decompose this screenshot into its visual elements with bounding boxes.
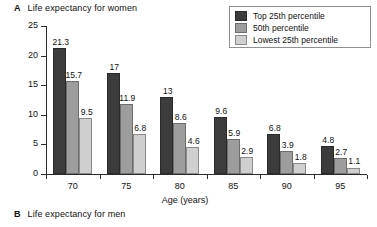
bar — [240, 157, 253, 174]
bar-value-label: 9.6 — [215, 106, 227, 116]
bar-value-label: 4.6 — [188, 136, 200, 146]
y-tick-label: 15 — [0, 79, 38, 89]
bar — [280, 151, 293, 174]
x-tick-mark — [367, 175, 368, 179]
legend-swatch-top-25th-percentile — [235, 11, 247, 21]
y-tick-label: 0 — [0, 168, 38, 178]
bar — [334, 158, 347, 174]
bar — [293, 163, 306, 174]
bar — [120, 104, 133, 174]
bar-groups: 21.315.79.51711.96.8138.64.69.65.92.96.8… — [46, 26, 367, 174]
bar-value-label: 8.6 — [175, 112, 187, 122]
y-tick-label: 20 — [0, 50, 38, 60]
legend-item: Top 25th percentile — [235, 10, 366, 22]
bar-value-label: 3.9 — [282, 140, 294, 150]
x-tick-mark — [46, 175, 47, 179]
bar-value-label: 17 — [110, 62, 119, 72]
bar — [66, 81, 79, 174]
x-tick-label: 70 — [68, 181, 78, 191]
legend-label-top-25th-percentile: Top 25th percentile — [253, 11, 325, 21]
panel-a-title: Life expectancy for women — [28, 3, 138, 13]
bar — [133, 134, 146, 174]
bar-value-label: 5.9 — [228, 128, 240, 138]
bar — [160, 97, 173, 174]
bar — [214, 117, 227, 174]
y-tick-label: 10 — [0, 109, 38, 119]
bar-value-label: 11.9 — [119, 93, 135, 103]
x-tick-mark — [207, 175, 208, 179]
bar — [186, 147, 199, 174]
bar-value-label: 15.7 — [65, 70, 82, 80]
bar — [347, 168, 360, 175]
panel-b-letter: B — [14, 209, 21, 219]
x-tick-label: 75 — [121, 181, 131, 191]
panel-a-heading: ALife expectancy for women — [14, 3, 137, 13]
x-axis-title: Age (years) — [162, 195, 209, 205]
figure-panel-a: ALife expectancy for women Top 25th perc… — [0, 0, 377, 227]
bar — [227, 139, 240, 174]
bar-value-label: 13 — [163, 86, 172, 96]
x-tick-mark — [100, 175, 101, 179]
bar — [173, 123, 186, 174]
bar-value-label: 2.9 — [241, 146, 253, 156]
bar-value-label: 4.8 — [322, 135, 334, 145]
bar-value-label: 9.5 — [81, 107, 93, 117]
panel-b-heading: BLife expectancy for men — [14, 209, 125, 219]
y-tick-label: 5 — [0, 138, 38, 148]
x-tick-mark — [314, 175, 315, 179]
x-tick-mark — [260, 175, 261, 179]
x-tick-label: 85 — [228, 181, 238, 191]
bar — [107, 73, 120, 174]
bar — [79, 118, 92, 174]
bar-value-label: 6.8 — [134, 123, 146, 133]
x-tick-mark — [153, 175, 154, 179]
bar-value-label: 2.7 — [335, 147, 347, 157]
bar-value-label: 1.1 — [348, 156, 360, 166]
bar-value-label: 6.8 — [269, 123, 281, 133]
bar-value-label: 21.3 — [52, 37, 69, 47]
bar — [267, 134, 280, 174]
y-tick-label: 25 — [0, 20, 38, 30]
x-tick-label: 80 — [175, 181, 185, 191]
x-tick-label: 90 — [282, 181, 292, 191]
panel-a-letter: A — [14, 3, 21, 13]
bar-value-label: 1.8 — [295, 152, 307, 162]
panel-b-title: Life expectancy for men — [28, 209, 126, 219]
bar — [321, 146, 334, 174]
bar — [53, 48, 66, 174]
x-tick-label: 95 — [335, 181, 345, 191]
